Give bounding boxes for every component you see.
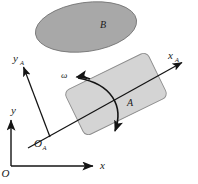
label-body-b: B (100, 19, 106, 30)
figure-canvas: B A x y O x A y A O A (0, 0, 198, 184)
label-body-origin: O (34, 137, 42, 149)
label-angular-velocity: ω (61, 70, 67, 80)
label-global-x: x (99, 159, 105, 171)
ellipse-body-b (32, 0, 140, 58)
label-body-x: x (167, 49, 173, 61)
kinematics-diagram: B A x y O x A y A O A (0, 0, 198, 184)
label-body-y-group: y A (12, 52, 24, 66)
label-body-y-subscript: A (19, 59, 24, 66)
label-global-origin: O (2, 167, 10, 179)
axis-body-y (24, 67, 51, 137)
body-a-shape (64, 51, 169, 136)
label-body-x-subscript: A (174, 56, 179, 63)
label-body-origin-subscript: A (42, 144, 47, 151)
label-body-y: y (12, 52, 18, 64)
label-body-x-group: x A (167, 49, 179, 63)
label-body-a: A (126, 97, 134, 108)
label-global-y: y (10, 104, 16, 116)
rect-body-a (64, 51, 169, 136)
body-b-shape (32, 0, 140, 58)
